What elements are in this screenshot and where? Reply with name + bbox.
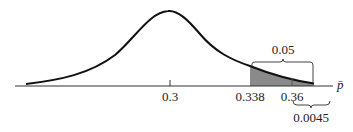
- tick-label-0.338: 0.338: [235, 89, 264, 104]
- tick-label-0.36: 0.36: [281, 89, 304, 104]
- annotation-0.0045: 0.0045: [293, 110, 329, 125]
- annotation-0.05: 0.05: [272, 42, 295, 57]
- axis-label-p-bar: p̄: [336, 77, 344, 92]
- tick-label-0.3: 0.3: [162, 89, 178, 104]
- normal-curve-diagram: 0.3 0.338 0.36 0.05 0.0045 p̄: [0, 0, 353, 132]
